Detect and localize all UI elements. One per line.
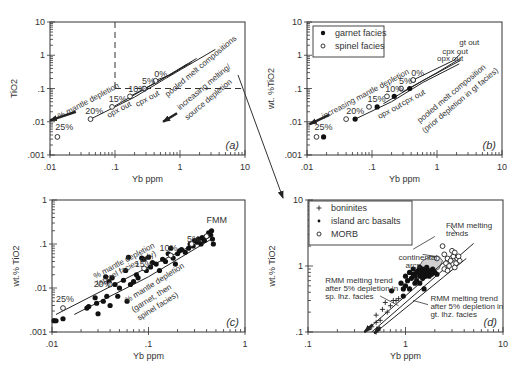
data-point-filled: [135, 275, 140, 280]
data-point-filled: [86, 304, 91, 309]
annotation: sp. lhz. facies: [325, 292, 373, 301]
panel-b-plot: .01.1110.001.01.1110Yb ppmwt. %TiO2(b)25…: [266, 17, 507, 184]
data-point-filled: [154, 261, 159, 266]
data-point-open: [457, 258, 462, 263]
x-tick-label: 1: [177, 162, 182, 172]
data-point-filled: [375, 104, 380, 109]
y-axis-label: wt. %TiO2: [266, 68, 276, 110]
x-tick-label: 10: [240, 162, 250, 172]
x-tick-label: .01: [46, 339, 59, 349]
annotation: continental: [399, 253, 438, 262]
data-point-filled: [421, 286, 426, 291]
point-label: 0%: [154, 69, 167, 79]
annotation: pooled melt composition: [416, 62, 488, 124]
data-point-filled: [121, 278, 126, 283]
data-point-open: [344, 117, 349, 122]
panel-label: (a): [226, 139, 240, 151]
data-point-open: [128, 94, 133, 99]
data-point-filled: [210, 236, 215, 241]
legend-marker-dot: [318, 220, 321, 223]
point-label: FMM: [207, 215, 228, 225]
annotation: FMM melting: [446, 221, 492, 230]
y-tick-label: .001: [29, 327, 47, 337]
data-point-open: [367, 104, 372, 109]
x-tick-label: .01: [301, 162, 314, 172]
y-tick-label: .01: [289, 117, 302, 127]
data-point-open: [448, 258, 453, 263]
y-tick-label: .1: [39, 239, 47, 249]
point-label: 20%: [85, 106, 103, 116]
y-tick-label: 1: [40, 50, 45, 60]
point-label: 0%: [411, 68, 424, 78]
annotation: opx out: [437, 54, 464, 63]
data-point-filled: [403, 274, 408, 279]
legend-marker-open: [321, 44, 325, 48]
legend-label: MORB: [331, 229, 358, 239]
data-point-filled: [417, 281, 422, 286]
annotation: trends: [446, 229, 468, 238]
x-axis-label: Yb ppm: [132, 174, 163, 184]
x-tick-label: 10: [498, 339, 508, 349]
x-tick-label: 1: [242, 339, 247, 349]
point-label: 10%: [159, 243, 177, 253]
data-point-filled: [401, 293, 406, 298]
data-point-filled: [104, 294, 109, 299]
y-tick-label: .1: [295, 327, 303, 337]
data-point-filled: [412, 281, 417, 286]
annotation: arcs: [406, 261, 421, 270]
panel-label: (b): [483, 139, 497, 151]
y-tick-label: 1: [42, 195, 47, 205]
leader-line: [413, 301, 428, 305]
x-tick-label: .1: [111, 162, 119, 172]
y-tick-label: .001: [27, 150, 45, 160]
data-point-filled: [112, 282, 117, 287]
y-tick-label: .01: [34, 283, 47, 293]
data-point-filled: [117, 285, 122, 290]
panel-a-plot: .01.1110.001.01.1110Yb ppmTiO2(a)25%20%1…: [9, 17, 250, 184]
data-point-filled: [115, 294, 120, 299]
x-axis-label: Yb ppm: [133, 351, 164, 361]
data-point-open: [314, 135, 319, 140]
legend-marker-open: [317, 232, 321, 236]
y-tick-label: .1: [294, 84, 302, 94]
x-tick-label: .1: [145, 339, 153, 349]
x-tick-label: 1: [434, 162, 439, 172]
annotation: cpx out: [400, 87, 428, 107]
data-point-filled: [107, 303, 112, 308]
legend-label: island arc basalts: [331, 216, 401, 226]
legend-label: boninites: [331, 203, 368, 213]
point-label: 25%: [56, 294, 74, 304]
x-tick-label: 10: [497, 162, 507, 172]
leader-line: [413, 236, 435, 249]
point-label: 5%: [187, 234, 200, 244]
data-point-filled: [209, 228, 214, 233]
data-point-open: [452, 250, 457, 255]
point-label: 25%: [314, 122, 332, 132]
y-tick-label: 10: [35, 17, 45, 27]
y-tick-label: .1: [37, 84, 45, 94]
y-tick-label: 10: [293, 195, 303, 205]
x-axis-label: Yb ppm: [390, 351, 421, 361]
point-label: 5%: [142, 76, 155, 86]
data-point-open: [442, 252, 447, 257]
x-tick-label: .1: [368, 162, 376, 172]
y-tick-label: .01: [32, 117, 45, 127]
legend-label: garnet facies: [335, 28, 387, 38]
data-point-filled: [163, 259, 168, 264]
data-point-open: [440, 244, 445, 249]
data-point-filled: [95, 311, 100, 316]
data-point-filled: [321, 134, 326, 139]
data-point-open: [61, 306, 66, 311]
x-axis-label: Yb ppm: [389, 174, 420, 184]
data-point-filled: [407, 286, 412, 291]
data-point-filled: [93, 295, 98, 300]
y-axis-label: TiO2: [9, 79, 19, 98]
data-point-open: [168, 253, 173, 258]
data-point-open: [445, 268, 450, 273]
y-tick-label: 1: [297, 50, 302, 60]
figure-canvas: .01.1110.001.01.1110Yb ppmTiO2(a)25%20%1…: [0, 0, 526, 381]
x-tick-label: .1: [304, 339, 312, 349]
data-point-filled: [157, 268, 162, 273]
data-point-filled: [434, 272, 439, 277]
annotation: increasing mantle depletion: [320, 67, 410, 121]
